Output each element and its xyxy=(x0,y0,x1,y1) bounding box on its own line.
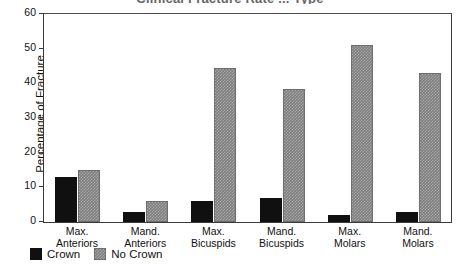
y-tick-mark xyxy=(39,117,44,118)
bar xyxy=(283,89,305,222)
chart-legend: CrownNo Crown xyxy=(30,248,162,260)
x-label-line-2: Molars xyxy=(402,238,434,250)
legend-item: No Crown xyxy=(94,248,162,260)
x-axis-group-label: Max.Anteriors xyxy=(56,226,98,249)
y-tick-mark xyxy=(39,13,44,14)
y-tick-label: 40 xyxy=(24,76,36,87)
y-tick-label: 30 xyxy=(24,111,36,122)
x-label-line-2: Bicuspids xyxy=(259,238,304,250)
y-tick-mark xyxy=(39,82,44,83)
y-tick-mark xyxy=(39,152,44,153)
bar xyxy=(260,198,282,223)
x-label-line-1: Max. xyxy=(202,225,225,237)
bar xyxy=(191,201,213,222)
legend-label: No Crown xyxy=(111,248,162,260)
y-tick-label: 20 xyxy=(24,146,36,157)
x-axis-group-label: Max.Molars xyxy=(334,226,366,249)
y-tick-label: 0 xyxy=(30,215,36,226)
bar xyxy=(55,177,77,223)
chart-figure: Clinical Fracture Rate ... Type Percenta… xyxy=(0,0,458,265)
y-tick-mark xyxy=(39,48,44,49)
x-label-line-2: Bicuspids xyxy=(191,238,236,250)
x-label-line-1: Mand. xyxy=(267,225,296,237)
bar xyxy=(396,212,418,223)
bar xyxy=(351,45,373,222)
y-tick-label: 60 xyxy=(24,7,36,18)
x-axis-group-label: Mand.Anteriors xyxy=(124,226,166,249)
bar xyxy=(123,212,145,223)
x-label-line-2: Molars xyxy=(334,238,366,250)
x-label-line-1: Max. xyxy=(66,225,89,237)
legend-swatch-no-crown xyxy=(94,248,106,260)
y-tick-label: 10 xyxy=(24,180,36,191)
x-label-line-1: Mand. xyxy=(403,225,432,237)
bar xyxy=(214,68,236,222)
y-tick-mark xyxy=(39,221,44,222)
chart-title: Clinical Fracture Rate ... Type xyxy=(60,0,400,4)
legend-label: Crown xyxy=(47,248,80,260)
x-axis-group-label: Max.Bicuspids xyxy=(191,226,236,249)
x-axis-group-label: Mand.Molars xyxy=(402,226,434,249)
y-tick-mark xyxy=(39,186,44,187)
x-label-line-1: Mand. xyxy=(131,225,160,237)
plot-area: 0102030405060 xyxy=(43,13,452,223)
x-axis-group-label: Mand.Bicuspids xyxy=(259,226,304,249)
bar xyxy=(419,73,441,222)
bar xyxy=(328,215,350,222)
legend-item: Crown xyxy=(30,248,80,260)
bar xyxy=(78,170,100,223)
y-tick-label: 50 xyxy=(24,42,36,53)
legend-swatch-crown xyxy=(30,248,42,260)
x-label-line-1: Max. xyxy=(338,225,361,237)
bar xyxy=(146,201,168,222)
